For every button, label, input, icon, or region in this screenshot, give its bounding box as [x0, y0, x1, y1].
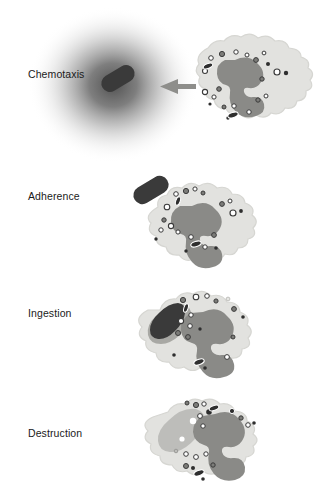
phagocyte-cell — [196, 34, 312, 119]
destruction-artwork — [0, 392, 318, 493]
stage-destruction: Destruction — [0, 392, 318, 493]
phagocyte-cell — [145, 399, 257, 481]
stage-ingestion: Ingestion — [0, 277, 318, 392]
stage-label-chemotaxis: Chemotaxis — [28, 68, 84, 80]
stage-chemotaxis: Chemotaxis — [0, 0, 318, 165]
stage-label-ingestion: Ingestion — [28, 307, 72, 319]
adherence-artwork — [0, 165, 318, 277]
stage-label-adherence: Adherence — [28, 190, 80, 202]
ingestion-artwork — [0, 277, 318, 392]
phagocyte-cell — [139, 291, 252, 378]
stage-adherence: Adherence — [0, 165, 318, 277]
chemotaxis-artwork — [0, 0, 318, 165]
phagocyte-cell — [148, 183, 256, 268]
stage-label-destruction: Destruction — [28, 427, 82, 439]
